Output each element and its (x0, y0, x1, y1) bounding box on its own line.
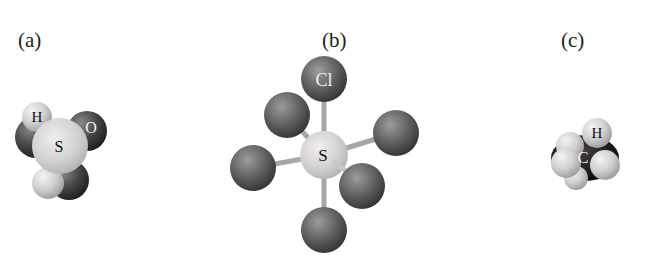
atom-sphere-cl-right (373, 110, 419, 156)
molecule-a: H S O (15, 102, 107, 200)
atom-sphere-h-left (551, 148, 581, 178)
atom-sphere-cl-upper-left (264, 92, 310, 138)
molecule-b: Cl S (230, 56, 419, 253)
atom-label-h: H (32, 109, 43, 125)
atom-sphere-cl-bottom (301, 207, 347, 253)
atom-label-c: C (578, 149, 589, 166)
atom-label-s: S (55, 138, 64, 155)
atom-sphere-h-right (590, 150, 620, 180)
atom-label-s: S (318, 146, 327, 165)
atom-sphere-cl-left (230, 145, 276, 191)
atom-sphere-cl-lower-right (339, 163, 385, 209)
atom-label-h: H (592, 125, 603, 141)
molecule-c: H C (551, 118, 620, 190)
atom-label-cl: Cl (315, 70, 332, 90)
atom-label-o: O (85, 119, 97, 136)
